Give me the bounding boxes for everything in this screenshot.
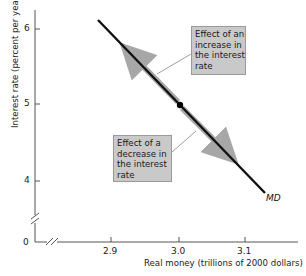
y-tick-label-4: 4 bbox=[24, 175, 30, 185]
decrease-leader-line bbox=[172, 131, 196, 152]
y-axis-title: Interest rate (percent per year) bbox=[10, 0, 20, 128]
decrease-callout-line-4: rate bbox=[117, 170, 168, 181]
increase-callout-line-2: increase in bbox=[195, 40, 242, 51]
decrease-callout: Effect of a decrease in the interest rat… bbox=[113, 135, 172, 182]
y-tick-label-0: 0 bbox=[23, 237, 29, 247]
y-tick-label-6: 6 bbox=[24, 23, 30, 33]
x-tick-label-3.0: 3.0 bbox=[171, 246, 185, 256]
y-tick-label-5: 5 bbox=[24, 98, 30, 108]
increase-callout: Effect of an increase in the interest ra… bbox=[191, 26, 246, 75]
increase-callout-line-3: the interest bbox=[195, 50, 242, 61]
increase-leader-line bbox=[157, 54, 191, 74]
x-axis-break-icon bbox=[46, 237, 58, 247]
x-tick-label-2.9: 2.9 bbox=[103, 246, 117, 256]
increase-callout-line-1: Effect of an bbox=[195, 29, 242, 40]
equilibrium-point bbox=[177, 102, 183, 108]
decrease-callout-line-1: Effect of a bbox=[117, 138, 168, 149]
x-tick-label-3.1: 3.1 bbox=[237, 246, 251, 256]
decrease-callout-line-3: the interest bbox=[117, 159, 168, 170]
decrease-callout-line-2: decrease in bbox=[117, 149, 168, 160]
increase-callout-line-4: rate bbox=[195, 61, 242, 72]
md-curve-label: MD bbox=[266, 193, 281, 203]
x-axis-title: Real money (trillions of 2000 dollars) bbox=[144, 258, 303, 268]
